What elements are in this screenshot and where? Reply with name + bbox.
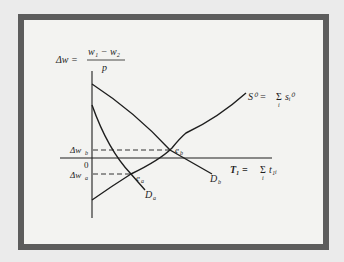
svg-text:e: e bbox=[175, 145, 179, 155]
y-axis-label: Δw = w₁ − w₂ p bbox=[55, 46, 125, 73]
svg-text:b: b bbox=[180, 150, 183, 156]
svg-text:D: D bbox=[209, 173, 218, 184]
svg-text:S⁰ =: S⁰ = bbox=[248, 91, 266, 102]
svg-text:i: i bbox=[262, 175, 264, 181]
equilibrium-a-label: e a bbox=[136, 173, 144, 184]
dw-b-label: Δw b bbox=[69, 145, 88, 156]
svg-text:Σ: Σ bbox=[260, 164, 266, 175]
supply-curve bbox=[92, 93, 246, 200]
origin-label: 0 bbox=[84, 160, 89, 170]
svg-text:w₁ − w₂: w₁ − w₂ bbox=[88, 46, 121, 57]
supply-demand-diagram: Δw = w₁ − w₂ p S⁰ = Σ i sᵢ⁰ T₁ = Σ i t₁ᵢ… bbox=[0, 0, 344, 262]
svg-text:b: b bbox=[218, 179, 221, 185]
svg-text:Δw: Δw bbox=[69, 145, 81, 155]
svg-text:Σ: Σ bbox=[276, 91, 282, 102]
svg-text:a: a bbox=[141, 178, 144, 184]
svg-text:e: e bbox=[136, 173, 140, 183]
svg-text:t₁ᵢ: t₁ᵢ bbox=[269, 164, 277, 175]
svg-text:T₁ =: T₁ = bbox=[230, 164, 248, 175]
demand-a-label: D a bbox=[144, 189, 156, 201]
svg-text:D: D bbox=[144, 189, 153, 200]
svg-text:i: i bbox=[278, 102, 280, 108]
svg-text:a: a bbox=[85, 175, 88, 181]
supply-label: S⁰ = Σ i sᵢ⁰ bbox=[248, 91, 296, 108]
svg-text:Δw: Δw bbox=[69, 170, 81, 180]
svg-text:Δw =: Δw = bbox=[55, 54, 78, 65]
svg-text:sᵢ⁰: sᵢ⁰ bbox=[285, 91, 296, 102]
dw-a-label: Δw a bbox=[69, 170, 88, 181]
svg-text:b: b bbox=[85, 150, 88, 156]
svg-text:a: a bbox=[153, 195, 156, 201]
x-axis-label: T₁ = Σ i t₁ᵢ bbox=[230, 164, 277, 181]
demand-b-label: D b bbox=[209, 173, 221, 185]
svg-text:p: p bbox=[101, 62, 107, 73]
